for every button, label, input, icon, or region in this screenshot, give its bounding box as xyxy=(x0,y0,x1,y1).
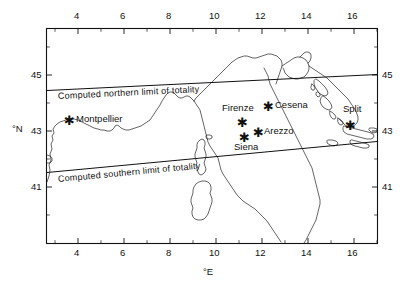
left-axis-ticks xyxy=(47,47,53,215)
y-tick-label-left-43: 43 xyxy=(31,126,42,136)
x-tick-label-top-8: 8 xyxy=(166,11,171,21)
city-marker-montpellier[interactable]: ✱ xyxy=(64,114,75,127)
city-marker-split[interactable]: ✱ xyxy=(345,119,356,132)
x-tick-label-bottom-14: 14 xyxy=(301,248,312,258)
x-tick-label-top-10: 10 xyxy=(209,11,220,21)
x-tick-label-bottom-6: 6 xyxy=(120,248,125,258)
city-label-montpellier: Montpellier xyxy=(76,114,122,124)
city-label-firenze: Firenze xyxy=(222,103,254,113)
x-tick-label-bottom-10: 10 xyxy=(209,248,220,258)
x-tick-label-top-4: 4 xyxy=(74,11,79,21)
eclipse-totality-map: 4 6 8 10 12 14 16 4 6 8 10 12 14 16 45 4… xyxy=(0,0,406,291)
city-label-arezzo: Arezzo xyxy=(264,126,294,136)
city-marker-firenze[interactable]: ✱ xyxy=(237,116,248,129)
city-marker-arezzo[interactable]: ✱ xyxy=(253,126,264,139)
x-tick-label-bottom-12: 12 xyxy=(255,248,266,258)
top-axis-ticks xyxy=(55,29,377,35)
x-tick-label-bottom-8: 8 xyxy=(166,248,171,258)
x-tick-label-bottom-16: 16 xyxy=(347,248,358,258)
x-tick-label-top-6: 6 xyxy=(120,11,125,21)
x-tick-label-top-16: 16 xyxy=(347,11,358,21)
city-label-cesena: Cesena xyxy=(275,100,308,110)
x-tick-label-top-14: 14 xyxy=(301,11,312,21)
x-tick-label-top-12: 12 xyxy=(255,11,266,21)
city-label-split: Split xyxy=(343,104,361,114)
y-tick-label-right-43: 43 xyxy=(382,126,393,136)
y-tick-label-left-45: 45 xyxy=(31,70,42,80)
y-tick-label-left-41: 41 xyxy=(31,182,42,192)
bottom-axis-ticks xyxy=(55,238,377,244)
y-axis-title: °N xyxy=(12,124,23,134)
y-tick-label-right-41: 41 xyxy=(382,182,393,192)
city-label-siena: Siena xyxy=(234,142,258,152)
southern-limit-line xyxy=(47,142,377,173)
y-tick-label-right-45: 45 xyxy=(382,70,393,80)
map-canvas xyxy=(0,0,406,291)
city-marker-cesena[interactable]: ✱ xyxy=(263,100,274,113)
x-axis-title: °E xyxy=(203,267,213,277)
x-tick-label-bottom-4: 4 xyxy=(74,248,79,258)
